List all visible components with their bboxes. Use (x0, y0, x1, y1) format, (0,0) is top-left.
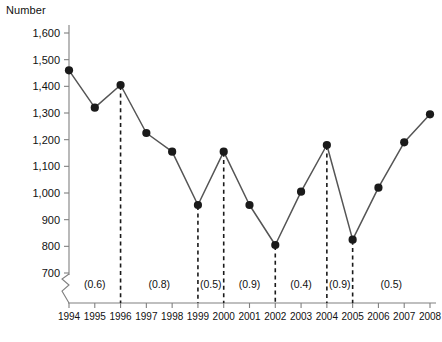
x-tick-label-1999: 1999 (187, 311, 209, 322)
x-tick-label-2005: 2005 (342, 311, 364, 322)
x-tick-label-1996: 1996 (109, 311, 131, 322)
data-point-2001[interactable] (245, 201, 253, 209)
x-tick-label-2006: 2006 (367, 311, 389, 322)
y-tick-label-900: 900 (12, 214, 60, 226)
y-tick-label-700: 700 (12, 267, 60, 279)
data-line (69, 70, 430, 245)
y-tick-label-1600: 1,600 (12, 27, 60, 39)
interval-label-5: (0.9) (329, 278, 351, 290)
interval-label-3: (0.9) (239, 278, 261, 290)
data-point-2002[interactable] (271, 241, 279, 249)
x-tick-label-2004: 2004 (316, 311, 338, 322)
y-tick-label-1200: 1,200 (12, 134, 60, 146)
y-tick-label-1400: 1,400 (12, 80, 60, 92)
x-tick-label-1997: 1997 (135, 311, 157, 322)
interval-label-0: (0.6) (84, 278, 106, 290)
y-axis-break-symbol (62, 274, 69, 303)
data-point-2007[interactable] (400, 138, 408, 146)
x-tick-label-2001: 2001 (238, 311, 260, 322)
data-point-2008[interactable] (426, 110, 434, 118)
x-tick-label-2002: 2002 (264, 311, 286, 322)
y-tick-label-1100: 1,100 (12, 160, 60, 172)
y-tick-label-800: 800 (12, 240, 60, 252)
x-tick-label-1998: 1998 (161, 311, 183, 322)
line-chart: Number 7008009001,0001,1001,2001,3001,40… (0, 0, 442, 342)
data-point-2000[interactable] (220, 148, 228, 156)
data-point-1994[interactable] (65, 66, 73, 74)
y-tick-label-1500: 1,500 (12, 54, 60, 66)
y-tick-label-1000: 1,000 (12, 187, 60, 199)
data-point-2005[interactable] (349, 236, 357, 244)
data-point-1999[interactable] (194, 201, 202, 209)
data-point-1995[interactable] (91, 104, 99, 112)
x-tick-label-2008: 2008 (419, 311, 441, 322)
data-point-2004[interactable] (323, 141, 331, 149)
data-point-1998[interactable] (168, 148, 176, 156)
interval-label-2: (0.5) (200, 278, 222, 290)
x-tick-label-2007: 2007 (393, 311, 415, 322)
interval-label-4: (0.4) (290, 278, 312, 290)
interval-label-1: (0.8) (148, 278, 170, 290)
data-point-2003[interactable] (297, 188, 305, 196)
data-point-1997[interactable] (142, 129, 150, 137)
x-tick-label-1995: 1995 (84, 311, 106, 322)
x-tick-label-2003: 2003 (290, 311, 312, 322)
data-point-2006[interactable] (374, 184, 382, 192)
plot-area (0, 0, 442, 342)
y-tick-label-1300: 1,300 (12, 107, 60, 119)
x-tick-label-1994: 1994 (58, 311, 80, 322)
interval-label-6: (0.5) (381, 278, 403, 290)
x-tick-label-2000: 2000 (213, 311, 235, 322)
data-point-1996[interactable] (116, 81, 124, 89)
